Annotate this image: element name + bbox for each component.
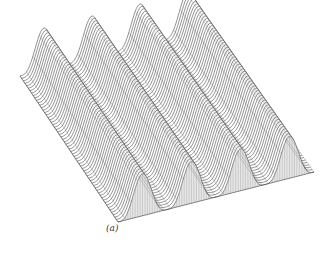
wireframe-surface [20,0,314,222]
surface-plot [0,0,334,259]
figure-caption: (a) [106,223,118,233]
